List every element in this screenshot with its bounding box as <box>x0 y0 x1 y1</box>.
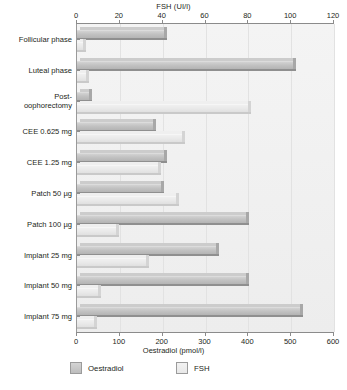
category-label: CEE 0.625 mg <box>0 127 72 136</box>
axis-tick-mark <box>162 333 163 336</box>
axis-tick-label: 400 <box>241 337 254 346</box>
axis-tick-label: 500 <box>284 337 297 346</box>
bar-shadow-edge <box>77 296 101 298</box>
axis-tick-label: 100 <box>284 11 297 20</box>
bar-shadow-edge <box>77 266 149 268</box>
category-label-line: Patch 100 µg <box>27 220 72 229</box>
category-label-line: Implant 75 mg <box>24 312 72 321</box>
axis-tick-label: 0 <box>74 11 78 20</box>
category-label: Implant 25 mg <box>0 251 72 260</box>
bar-fsh <box>77 227 116 235</box>
axis-tick-mark <box>205 20 206 23</box>
bar-front-face <box>77 122 153 130</box>
bar-fsh <box>77 104 248 112</box>
category-label: Post-oophorectomy <box>0 92 72 110</box>
axis-tick-label: 600 <box>327 337 340 346</box>
bar-shadow-edge <box>77 69 296 71</box>
axis-tick-mark <box>247 20 248 23</box>
bar-side-face <box>246 273 249 284</box>
bar-front-face <box>77 184 161 192</box>
bar-side-face <box>164 27 167 38</box>
bar-side-face <box>176 193 179 204</box>
bar-front-face <box>77 258 146 266</box>
gridline <box>334 24 335 332</box>
bar-side-face <box>161 181 164 192</box>
legend-item: Oestradiol <box>70 362 124 374</box>
category-label: Implant 50 mg <box>0 281 72 290</box>
bar-side-face <box>98 285 101 296</box>
bar-front-face <box>77 92 89 100</box>
axis-tick-mark <box>119 20 120 23</box>
bar-front-face <box>77 215 246 223</box>
bar-side-face <box>146 255 149 266</box>
category-label: Implant 75 mg <box>0 312 72 321</box>
bar-front-face <box>77 276 246 284</box>
bar-front-face <box>77 104 248 112</box>
bar-front-face <box>77 42 83 50</box>
bar-front-face <box>77 319 94 327</box>
chart-legend: OestradiolFSH <box>0 362 347 384</box>
bar-side-face <box>83 39 86 50</box>
bar-side-face <box>293 58 296 69</box>
category-label-line: Post- <box>54 92 72 101</box>
axis-tick-mark <box>76 333 77 336</box>
bar-front-face <box>77 73 86 81</box>
axis-tick-mark <box>290 20 291 23</box>
bar-side-face <box>300 304 303 315</box>
category-label-line: Implant 50 mg <box>24 281 72 290</box>
bar-front-face <box>77 30 164 38</box>
category-label-line: Follicular phase <box>19 35 72 44</box>
category-label-line: Luteal phase <box>29 66 73 75</box>
bar-oestradiol <box>77 153 164 161</box>
bar-shadow-edge <box>77 327 97 329</box>
bar-front-face <box>77 153 164 161</box>
bar-shadow-edge <box>77 315 303 317</box>
bar-fsh <box>77 165 158 173</box>
axis-tick-label: 200 <box>155 337 168 346</box>
bar-shadow-edge <box>77 284 249 286</box>
bar-fsh <box>77 288 98 296</box>
bar-fsh <box>77 258 146 266</box>
category-label: Follicular phase <box>0 35 72 44</box>
bar-oestradiol <box>77 307 300 315</box>
legend-label: FSH <box>194 364 210 373</box>
bar-side-face <box>164 150 167 161</box>
axis-tick-mark <box>290 333 291 336</box>
axis-tick-mark <box>333 333 334 336</box>
bar-side-face <box>248 101 251 112</box>
bar-oestradiol <box>77 61 293 69</box>
bar-oestradiol <box>77 246 216 254</box>
bar-side-face <box>89 89 92 100</box>
bar-oestradiol <box>77 215 246 223</box>
bar-side-face <box>86 70 89 81</box>
axis-tick-label: 40 <box>157 11 165 20</box>
category-label: Patch 100 µg <box>0 220 72 229</box>
bar-chart: FSH (UI/l) 020406080100120 Follicular ph… <box>0 0 347 390</box>
bar-side-face <box>216 243 219 254</box>
axis-tick-mark <box>162 20 163 23</box>
bar-front-face <box>77 165 158 173</box>
axis-tick-label: 60 <box>200 11 208 20</box>
legend-item: FSH <box>176 362 210 374</box>
bar-side-face <box>158 162 161 173</box>
bar-shadow-edge <box>77 142 185 144</box>
legend-label: Oestradiol <box>88 364 124 373</box>
bar-oestradiol <box>77 122 153 130</box>
category-labels: Follicular phaseLuteal phasePost-oophore… <box>0 24 72 332</box>
bar-shadow-edge <box>77 50 86 52</box>
bar-side-face <box>94 316 97 327</box>
bar-shadow-edge <box>77 112 251 114</box>
bar-front-face <box>77 61 293 69</box>
category-label-line: oophorectomy <box>24 101 72 110</box>
bar-side-face <box>182 131 185 142</box>
bar-side-face <box>246 212 249 223</box>
axis-tick-label: 20 <box>115 11 123 20</box>
bar-oestradiol <box>77 184 161 192</box>
bar-fsh <box>77 319 94 327</box>
category-label-line: CEE 0.625 mg <box>23 127 72 136</box>
bar-side-face <box>116 224 119 235</box>
bar-shadow-edge <box>77 204 179 206</box>
axis-tick-label: 80 <box>243 11 251 20</box>
axis-tick-mark <box>205 333 206 336</box>
axis-tick-label: 300 <box>198 337 211 346</box>
